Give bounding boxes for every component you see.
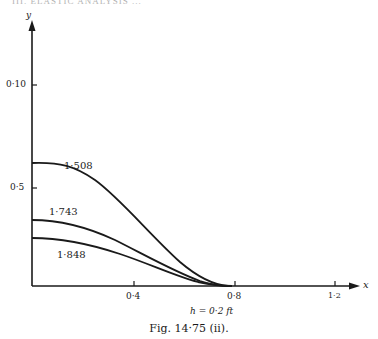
x-axis-arrow-icon xyxy=(349,283,360,290)
y-axis-label: y xyxy=(26,10,31,20)
ytick-label-0-5: 0·5 xyxy=(10,182,24,192)
curve-1-508 xyxy=(32,163,228,286)
curve-label-1-508: 1·508 xyxy=(64,160,93,171)
xtick-label-0-4: 0·4 xyxy=(126,291,140,301)
xtick-label-1-2: 1·2 xyxy=(328,291,341,300)
curve-label-1-848: 1·848 xyxy=(57,249,86,260)
chart-figure xyxy=(0,0,378,339)
x-axis-label: x xyxy=(363,279,369,290)
ytick-label-0-10: 0·10 xyxy=(6,79,26,89)
curve-1-848 xyxy=(32,238,232,286)
y-axis-arrow-icon xyxy=(29,20,36,31)
curve-label-1-743: 1·743 xyxy=(49,206,78,217)
xtick-label-0-8: 0·8 xyxy=(227,291,241,301)
figure-caption: Fig. 14·75 (ii). xyxy=(0,322,378,335)
parameter-annotation: h = 0·2 ft xyxy=(190,306,233,316)
